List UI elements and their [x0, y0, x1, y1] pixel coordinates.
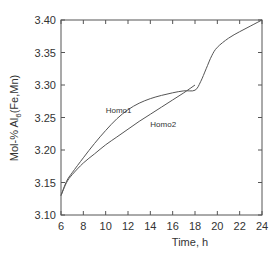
- x-axis-title: Time, h: [172, 236, 208, 248]
- y-tick-label: 3.40: [35, 14, 56, 26]
- y-axis-title-post: (Fe,Mn): [8, 75, 20, 114]
- y-tick-label: 3.30: [35, 79, 56, 91]
- x-tick-label: 12: [122, 220, 134, 232]
- series-line-homo1: [61, 20, 262, 196]
- annotation-homo1: Homo1: [106, 106, 132, 115]
- axes-box: [61, 20, 262, 215]
- x-tick-label: 24: [256, 220, 268, 232]
- y-tick-label: 3.10: [35, 209, 56, 221]
- x-tick-label: 16: [167, 220, 179, 232]
- y-tick-label: 3.15: [35, 177, 56, 189]
- x-tick-label: 22: [234, 220, 246, 232]
- y-axis-title: Mol-% Al6(Fe,Mn): [8, 75, 23, 161]
- line-chart: 681012141618202224 3.103.153.203.253.303…: [0, 0, 280, 254]
- x-tick-label: 20: [211, 220, 223, 232]
- x-tick-label: 6: [58, 220, 64, 232]
- series-line-homo2: [61, 85, 195, 196]
- y-axis-title-pre: Mol-% Al: [8, 118, 20, 161]
- annotations: Homo1Homo2: [106, 106, 177, 129]
- y-tick-label: 3.25: [35, 112, 56, 124]
- annotation-homo2: Homo2: [150, 120, 176, 129]
- y-axis-ticks: 3.103.153.203.253.303.353.40: [35, 14, 262, 221]
- x-tick-label: 10: [100, 220, 112, 232]
- x-tick-label: 14: [144, 220, 156, 232]
- x-tick-label: 8: [80, 220, 86, 232]
- plot-frame: [61, 20, 262, 215]
- series-lines: [61, 20, 262, 196]
- y-tick-label: 3.20: [35, 144, 56, 156]
- y-tick-label: 3.35: [35, 47, 56, 59]
- x-tick-label: 18: [189, 220, 201, 232]
